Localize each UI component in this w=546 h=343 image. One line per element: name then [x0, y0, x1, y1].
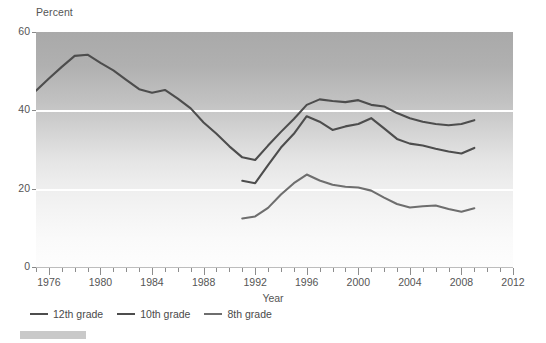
x-tick-label-1996: 1996 [285, 276, 329, 288]
plot-area [36, 32, 513, 267]
x-tick-1986 [178, 268, 179, 272]
x-tick-label-2012: 2012 [491, 276, 535, 288]
x-tick-2008 [461, 268, 462, 275]
x-axis-line [36, 267, 513, 268]
x-tick-label-2004: 2004 [388, 276, 432, 288]
x-tick-2010 [487, 268, 488, 272]
x-tick-1982 [126, 268, 127, 272]
x-tick-label-1984: 1984 [130, 276, 174, 288]
series-lines [36, 32, 513, 267]
x-axis-title: Year [0, 292, 546, 304]
x-tick-label-1980: 1980 [78, 276, 122, 288]
x-tick-label-1988: 1988 [182, 276, 226, 288]
legend-item-12th-grade[interactable]: 12th grade [30, 308, 103, 320]
legend-swatch-icon [204, 313, 222, 315]
x-tick-2011 [500, 268, 501, 272]
legend-swatch-icon [117, 313, 135, 315]
y-tick-label-20: 20 [0, 182, 30, 194]
bottom-scroll-bar[interactable] [20, 331, 86, 339]
x-tick-1976 [49, 268, 50, 275]
x-tick-2005 [423, 268, 424, 272]
x-tick-1994 [281, 268, 282, 272]
x-tick-2001 [371, 268, 372, 272]
y-tick-mark-60 [32, 32, 36, 33]
x-tick-2012 [513, 268, 514, 275]
chart-legend: 12th grade10th grade8th grade [30, 308, 272, 320]
x-tick-1992 [255, 268, 256, 275]
x-tick-1987 [191, 268, 192, 272]
legend-item-10th-grade[interactable]: 10th grade [117, 308, 190, 320]
series-line-8th-grade [242, 175, 474, 219]
x-tick-1980 [100, 268, 101, 275]
x-tick-1990 [229, 268, 230, 272]
legend-label: 8th grade [227, 308, 271, 320]
x-tick-2002 [384, 268, 385, 272]
x-tick-label-2000: 2000 [336, 276, 380, 288]
legend-swatch-icon [30, 313, 48, 315]
x-tick-1977 [62, 268, 63, 272]
legend-label: 12th grade [53, 308, 103, 320]
x-tick-1995 [294, 268, 295, 272]
x-tick-1988 [204, 268, 205, 275]
x-tick-1981 [113, 268, 114, 272]
chart-figure: Percent 6040200 197619801984198819921996… [0, 0, 546, 343]
x-tick-1989 [216, 268, 217, 272]
x-tick-label-2008: 2008 [439, 276, 483, 288]
y-axis-title: Percent [36, 6, 73, 18]
y-tick-mark-20 [32, 189, 36, 190]
y-tick-mark-40 [32, 110, 36, 111]
x-tick-2000 [358, 268, 359, 275]
x-tick-1978 [75, 268, 76, 272]
x-tick-1997 [320, 268, 321, 272]
y-tick-label-60: 60 [0, 25, 30, 37]
x-tick-label-1976: 1976 [27, 276, 71, 288]
x-tick-2007 [449, 268, 450, 272]
x-tick-1993 [268, 268, 269, 272]
x-tick-2006 [436, 268, 437, 272]
y-tick-label-0: 0 [0, 260, 30, 272]
series-line-10th-grade [242, 116, 474, 183]
y-tick-label-40: 40 [0, 103, 30, 115]
x-tick-1998 [333, 268, 334, 272]
x-tick-2004 [410, 268, 411, 275]
x-tick-1975 [36, 268, 37, 272]
x-tick-1979 [88, 268, 89, 272]
x-tick-2009 [474, 268, 475, 272]
x-tick-1985 [165, 268, 166, 272]
x-tick-1991 [242, 268, 243, 272]
x-tick-1984 [152, 268, 153, 275]
x-tick-2003 [397, 268, 398, 272]
legend-item-8th-grade[interactable]: 8th grade [204, 308, 271, 320]
x-tick-1999 [345, 268, 346, 272]
x-tick-1983 [139, 268, 140, 272]
legend-label: 10th grade [140, 308, 190, 320]
x-tick-label-1992: 1992 [233, 276, 277, 288]
x-tick-1996 [307, 268, 308, 275]
